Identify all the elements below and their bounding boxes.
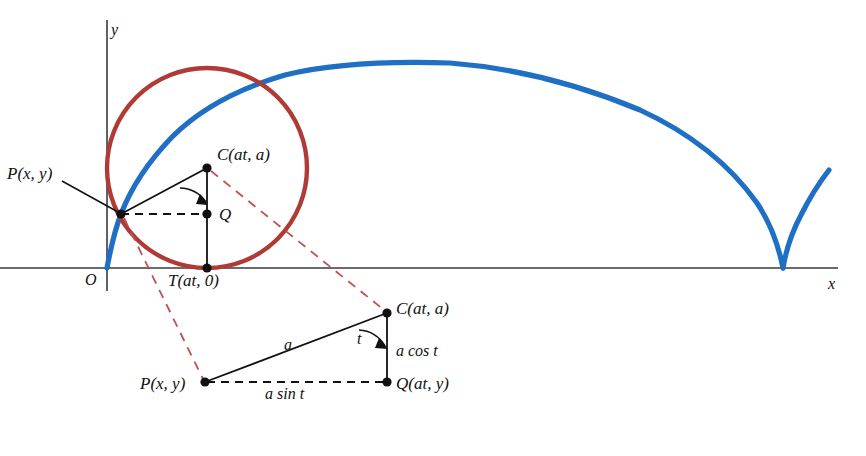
connector-C-to-C2 [211, 171, 384, 310]
angle-label-t: t [357, 331, 361, 347]
origin-label: O [85, 272, 97, 288]
point-P-detail [200, 377, 209, 386]
point-label-Q: Q [219, 206, 231, 223]
cycloid-figure: y x O P(x, y) C(at, a) Q T(at, 0) P(x, y… [0, 0, 866, 456]
x-axis-label: x [828, 276, 835, 292]
side-label-a-cos-t: a cos t [396, 343, 438, 359]
detail-angle-arc-arrowhead [375, 338, 388, 349]
point-Q [202, 209, 211, 218]
side-label-a-sin-t: a sin t [265, 386, 304, 402]
point-label-C: C(at, a) [217, 146, 270, 163]
point-C-detail [382, 308, 391, 317]
detail-point-label-C: C(at, a) [396, 300, 449, 317]
detail-point-label-P: P(x, y) [140, 375, 185, 392]
point-C [202, 163, 211, 172]
connector-P-to-P2 [124, 218, 203, 379]
triangle-hypotenuse-P2-C2 [205, 313, 387, 382]
y-axis-label: y [111, 22, 118, 38]
point-P [116, 209, 125, 218]
cycloid-curve-group [107, 62, 829, 268]
point-label-P: P(x, y) [7, 165, 52, 182]
point-Q-detail [382, 377, 391, 386]
detail-connector-group [124, 171, 384, 379]
detail-point-label-Q: Q(at, y) [396, 375, 449, 392]
cycloid-next-arch-start [783, 170, 829, 268]
side-label-hypotenuse-a: a [284, 337, 292, 353]
point-label-T: T(at, 0) [168, 272, 219, 289]
detail-triangle-group [200, 308, 391, 386]
